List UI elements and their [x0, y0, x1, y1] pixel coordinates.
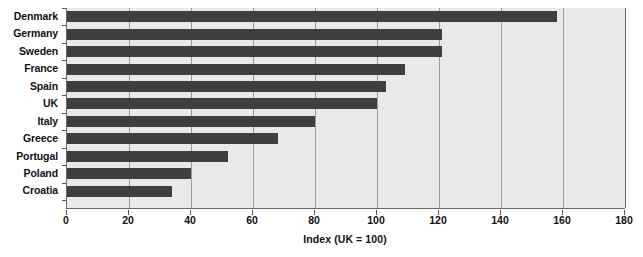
bar-row: [67, 25, 625, 42]
x-axis-title: Index (UK = 100): [66, 233, 624, 245]
bar-row: [67, 148, 625, 165]
value-tick-label: 100: [367, 214, 385, 226]
bar: [67, 81, 386, 92]
bar: [67, 29, 442, 40]
bar: [67, 186, 172, 197]
category-label: Sweden: [0, 43, 62, 60]
value-tick-label: 140: [491, 214, 509, 226]
category-label: Poland: [0, 165, 62, 182]
bar-row: [67, 130, 625, 147]
bar-chart: Denmark Germany Sweden France Spain UK I…: [0, 0, 643, 257]
value-tick-label: 60: [246, 214, 258, 226]
bar: [67, 116, 315, 127]
bar-row: [67, 95, 625, 112]
bar: [67, 151, 228, 162]
value-tick-label: 180: [615, 214, 633, 226]
bar: [67, 168, 191, 179]
category-label: Greece: [0, 130, 62, 147]
category-label: France: [0, 60, 62, 77]
bar-row: [67, 8, 625, 25]
category-label: UK: [0, 95, 62, 112]
category-label: Italy: [0, 113, 62, 130]
bar-row: [67, 165, 625, 182]
bar-row: [67, 113, 625, 130]
bar-row: [67, 78, 625, 95]
bar: [67, 46, 442, 57]
value-tick-label: 80: [308, 214, 320, 226]
value-tick-label: 40: [184, 214, 196, 226]
category-label: Spain: [0, 78, 62, 95]
bar-series: [67, 8, 625, 208]
category-axis: Denmark Germany Sweden France Spain UK I…: [0, 8, 62, 208]
bar-row: [67, 43, 625, 60]
category-label: Portugal: [0, 148, 62, 165]
bar-row: [67, 60, 625, 77]
category-label: Denmark: [0, 8, 62, 25]
value-tick-label: 20: [122, 214, 134, 226]
bar: [67, 133, 278, 144]
value-tick-label: 0: [63, 214, 69, 226]
category-label: Croatia: [0, 182, 62, 199]
bar-row: [67, 182, 625, 199]
bar: [67, 64, 405, 75]
value-axis-tick-labels: 020406080100120140160180: [66, 214, 624, 230]
bar: [67, 11, 557, 22]
plot-area: [66, 8, 625, 209]
value-tick-label: 160: [553, 214, 571, 226]
value-tick-label: 120: [429, 214, 447, 226]
category-label: Germany: [0, 25, 62, 42]
bar: [67, 98, 377, 109]
